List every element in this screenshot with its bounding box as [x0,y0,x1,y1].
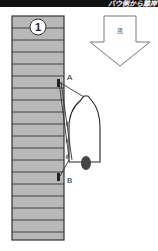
cleat-a-icon [57,79,60,87]
wind-arrow-icon: 風 [90,16,150,66]
boat [69,96,100,170]
engine-icon [81,156,91,170]
quay [12,16,64,240]
label-point-a: A [67,73,73,82]
label-point-b: B [67,176,72,185]
step-number-badge: 1 [30,19,46,35]
svg-text:風: 風 [117,28,123,35]
mooring-diagram: 1 風 A B [0,0,158,251]
cleat-b-icon [57,173,60,181]
svg-text:1: 1 [35,21,41,33]
